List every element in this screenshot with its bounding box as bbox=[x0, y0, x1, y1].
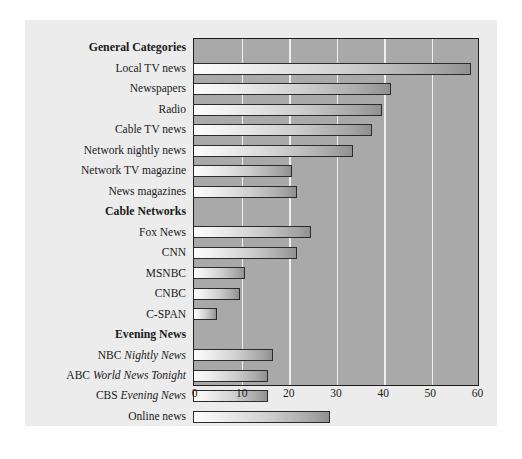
bar bbox=[193, 247, 297, 259]
bar-row: Cable TV news bbox=[25, 120, 479, 140]
bar-label: CNBC bbox=[25, 288, 193, 300]
bar-track bbox=[193, 284, 479, 304]
bar-label: Newspapers bbox=[25, 83, 193, 95]
group-heading-label: Cable Networks bbox=[25, 206, 193, 218]
bar-row: Fox News bbox=[25, 222, 479, 242]
bar-track bbox=[193, 140, 479, 160]
bar-row: Local TV news bbox=[25, 58, 479, 78]
bar-label: Radio bbox=[25, 104, 193, 116]
bar bbox=[193, 349, 273, 361]
x-axis-ticks: 0102030405060 bbox=[193, 388, 479, 410]
x-tick-label: 50 bbox=[425, 388, 437, 400]
bar-label: ABC World News Tonight bbox=[25, 370, 193, 382]
bar bbox=[193, 411, 330, 423]
group-heading-row: General Categories bbox=[25, 38, 479, 58]
bar bbox=[193, 104, 382, 116]
bar-label: Network nightly news bbox=[25, 145, 193, 157]
bar-label: CBS Evening News bbox=[25, 390, 193, 402]
group-heading-row: Evening News bbox=[25, 325, 479, 345]
bar bbox=[193, 288, 240, 300]
bar-track bbox=[193, 79, 479, 99]
bar bbox=[193, 124, 372, 136]
bar-track bbox=[193, 243, 479, 263]
bar-row: CNBC bbox=[25, 284, 479, 304]
bar bbox=[193, 370, 268, 382]
x-tick-label: 0 bbox=[192, 388, 198, 400]
bar-label-title: Evening News bbox=[121, 389, 186, 401]
x-tick-label: 20 bbox=[283, 388, 295, 400]
bar bbox=[193, 145, 353, 157]
bar-track bbox=[193, 181, 479, 201]
group-heading-label: Evening News bbox=[25, 329, 193, 341]
chart-rows: General CategoriesLocal TV newsNewspaper… bbox=[25, 38, 479, 386]
bar-label: Online news bbox=[25, 411, 193, 423]
bar-label: NBC Nightly News bbox=[25, 350, 193, 362]
bar-label-prefix: ABC bbox=[66, 369, 93, 381]
x-tick-label: 40 bbox=[377, 388, 389, 400]
bar-row: MSNBC bbox=[25, 263, 479, 283]
bar-label-prefix: NBC bbox=[98, 349, 125, 361]
x-tick-label: 10 bbox=[236, 388, 248, 400]
bar-track bbox=[193, 304, 479, 324]
bar-label-prefix: CBS bbox=[96, 389, 121, 401]
bar-row: CNN bbox=[25, 243, 479, 263]
group-heading-label: General Categories bbox=[25, 42, 193, 54]
bar bbox=[193, 186, 297, 198]
bar-label: CNN bbox=[25, 247, 193, 259]
bar-track bbox=[193, 161, 479, 181]
bar-track bbox=[193, 345, 479, 365]
bar-label: C-SPAN bbox=[25, 309, 193, 321]
chart-page: General CategoriesLocal TV newsNewspaper… bbox=[0, 0, 522, 459]
bar-label: MSNBC bbox=[25, 268, 193, 280]
bar-label: News magazines bbox=[25, 186, 193, 198]
group-heading-spacer bbox=[193, 325, 479, 345]
bar-row: ABC World News Tonight bbox=[25, 366, 479, 386]
bar bbox=[193, 83, 391, 95]
bar bbox=[193, 165, 292, 177]
bar-track bbox=[193, 58, 479, 78]
group-heading-row: Cable Networks bbox=[25, 202, 479, 222]
bar-row: C-SPAN bbox=[25, 304, 479, 324]
bar-track bbox=[193, 366, 479, 386]
x-tick-label: 60 bbox=[472, 388, 484, 400]
bar bbox=[193, 226, 311, 238]
bar-track bbox=[193, 263, 479, 283]
bar-row: Network nightly news bbox=[25, 140, 479, 160]
group-heading-spacer bbox=[193, 38, 479, 58]
bar-track bbox=[193, 120, 479, 140]
bar-label: Local TV news bbox=[25, 63, 193, 75]
bar-row: NBC Nightly News bbox=[25, 345, 479, 365]
bar bbox=[193, 308, 217, 320]
group-heading-spacer bbox=[193, 202, 479, 222]
bar-label: Cable TV news bbox=[25, 124, 193, 136]
x-tick-label: 30 bbox=[330, 388, 342, 400]
bar-label: Fox News bbox=[25, 227, 193, 239]
bar-label-title: World News Tonight bbox=[93, 369, 186, 381]
bar-row: Radio bbox=[25, 99, 479, 119]
bar-row: Network TV magazine bbox=[25, 161, 479, 181]
bar-row: Newspapers bbox=[25, 79, 479, 99]
bar bbox=[193, 63, 471, 75]
bar-track bbox=[193, 99, 479, 119]
bar bbox=[193, 267, 245, 279]
bar-track bbox=[193, 222, 479, 242]
bar-row: News magazines bbox=[25, 181, 479, 201]
bar-label: Network TV magazine bbox=[25, 165, 193, 177]
bar-label-title: Nightly News bbox=[124, 349, 186, 361]
